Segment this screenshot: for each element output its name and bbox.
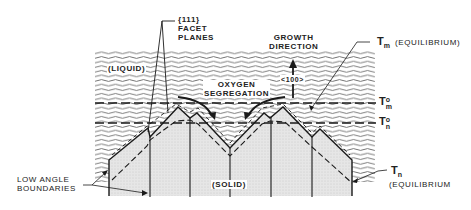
tn-equilibrium-label: Tn — [391, 165, 402, 180]
low-angle-boundaries-label: LOW ANGLE BOUNDARIES — [17, 175, 76, 193]
tm-equilibrium-label: Tm (EQUILIBRIUM) — [377, 36, 458, 51]
tm-eq-text: (EQUILIBRIUM) — [395, 38, 460, 47]
oxygen-segregation-label: OXYGEN SEGREGATION — [203, 80, 270, 98]
tm-eq-sub: m — [384, 42, 390, 49]
tn0-symbol: T — [379, 115, 386, 127]
tn-eq-symbol: T — [391, 164, 398, 176]
tm0-sub: m — [386, 103, 392, 110]
tm-eq-symbol: T — [377, 35, 384, 47]
growth-direction-label: GROWTH DIRECTION — [269, 33, 318, 51]
tn-eq-sub: n — [398, 171, 402, 178]
liquid-label: (LIQUID) — [107, 64, 146, 73]
facet-planes-label: {111} FACET PLANES — [178, 15, 214, 42]
tm0-label: Tom — [379, 96, 392, 108]
solid-label: (SOLID) — [211, 180, 247, 189]
tn0-label: Ton — [379, 116, 390, 128]
tn-equilibrium-text: (EQUILIBRIUM — [389, 180, 451, 189]
tn0-sub: n — [386, 123, 390, 130]
tm0-symbol: T — [379, 95, 386, 107]
direction-index-label: <100> — [280, 75, 305, 84]
